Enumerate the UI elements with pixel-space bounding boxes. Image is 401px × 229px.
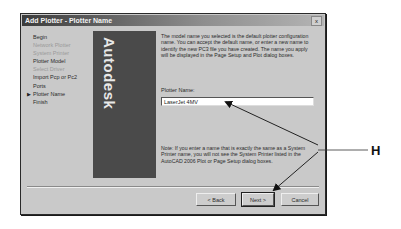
plotter-name-label: Plotter Name: <box>161 87 195 93</box>
step-plotter-model: Plotter Model <box>33 57 93 65</box>
cancel-button[interactable]: Cancel <box>281 193 319 206</box>
step-network-plotter: Network Plotter <box>33 41 93 49</box>
plotter-name-input[interactable]: LaserJet 4MV <box>161 97 314 106</box>
step-select-driver: Select Driver <box>33 65 93 73</box>
title-bar[interactable]: Add Plotter - Plotter Name x <box>22 15 324 26</box>
autodesk-banner: Autodesk <box>93 31 156 178</box>
autodesk-logo: Autodesk <box>101 37 118 109</box>
back-button[interactable]: < Back <box>196 193 236 206</box>
next-button[interactable]: Next > <box>242 193 274 206</box>
note-text: Note: If you enter a name that is exactl… <box>161 145 316 164</box>
dialog-title: Add Plotter - Plotter Name <box>25 15 112 26</box>
step-plotter-name: ▶ Plotter Name <box>33 90 93 98</box>
close-icon: x <box>315 18 318 24</box>
step-system-printer: System Printer <box>33 49 93 57</box>
step-import-pcp: Import Pcp or Pc2 <box>33 73 93 81</box>
step-begin: Begin <box>33 33 93 41</box>
add-plotter-dialog: Add Plotter - Plotter Name x Begin Netwo… <box>20 13 326 215</box>
step-finish: Finish <box>33 98 93 106</box>
callout-label: H <box>371 143 380 158</box>
close-button[interactable]: x <box>311 16 322 26</box>
wizard-steps: Begin Network Plotter System Printer Plo… <box>33 33 93 106</box>
step-ports: Ports <box>33 82 93 90</box>
description-text: The model name you selected is the defau… <box>161 33 313 59</box>
current-step-pointer-icon: ▶ <box>27 90 31 98</box>
divider <box>27 186 319 188</box>
